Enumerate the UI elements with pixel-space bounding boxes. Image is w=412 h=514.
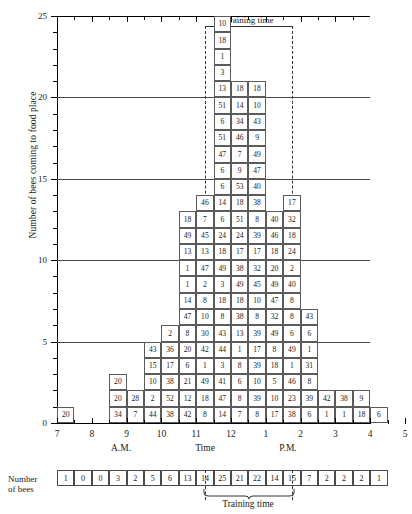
bee-cell: 47 bbox=[179, 309, 196, 325]
bee-cell: 40 bbox=[248, 179, 265, 195]
bee-cell: 43 bbox=[214, 325, 231, 341]
bee-cell: 24 bbox=[283, 244, 300, 260]
bottom-count-cell: 22 bbox=[248, 470, 265, 486]
bee-cell: 8 bbox=[196, 407, 213, 423]
bottom-count-cell: 2 bbox=[353, 470, 370, 486]
x-axis-tick bbox=[196, 418, 197, 424]
bee-cell: 42 bbox=[318, 390, 335, 406]
bee-cell: 47 bbox=[196, 260, 213, 276]
bee-cell: 52 bbox=[161, 390, 178, 406]
x-axis-tick bbox=[92, 418, 93, 424]
bee-cell: 51 bbox=[214, 97, 231, 113]
x-axis-tick bbox=[266, 418, 267, 424]
bee-cell: 38 bbox=[248, 195, 265, 211]
bee-cell: 1 bbox=[179, 260, 196, 276]
x-axis-tick bbox=[405, 418, 406, 424]
bee-cell: 18 bbox=[196, 390, 213, 406]
x-axis-minor-tick bbox=[248, 420, 249, 424]
bottom-count-cell: 25 bbox=[214, 470, 231, 486]
bee-cell: 1 bbox=[196, 358, 213, 374]
bee-cell: 51 bbox=[231, 211, 248, 227]
bottom-count-cell: 1 bbox=[57, 470, 74, 486]
bee-cell: 18 bbox=[231, 293, 248, 309]
bee-cell: 8 bbox=[248, 309, 265, 325]
x-axis-tick-label: 11 bbox=[183, 429, 209, 439]
bottom-count-cell: 0 bbox=[74, 470, 91, 486]
bee-cell: 39 bbox=[248, 390, 265, 406]
bee-cell: 8 bbox=[248, 211, 265, 227]
bee-cell: 10 bbox=[266, 390, 283, 406]
bottom-count-cell: 2 bbox=[318, 470, 335, 486]
bee-cell: 3 bbox=[214, 65, 231, 81]
bee-cell: 24 bbox=[231, 228, 248, 244]
bee-cell: 10 bbox=[248, 97, 265, 113]
bee-cell: 6 bbox=[214, 179, 231, 195]
bee-cell: 28 bbox=[127, 390, 144, 406]
bee-cell: 18 bbox=[248, 81, 265, 97]
bee-cell: 8 bbox=[301, 374, 318, 390]
bee-cell: 14 bbox=[214, 195, 231, 211]
bee-cell: 8 bbox=[179, 325, 196, 341]
bee-cell: 42 bbox=[179, 407, 196, 423]
bee-cell: 32 bbox=[266, 309, 283, 325]
bottom-count-cell: 2 bbox=[127, 470, 144, 486]
bee-cell: 8 bbox=[283, 309, 300, 325]
pm-label: P.M. bbox=[268, 443, 308, 453]
bee-cell: 38 bbox=[283, 407, 300, 423]
x-axis-tick-label: 8 bbox=[79, 429, 105, 439]
x-axis-tick bbox=[301, 418, 302, 424]
bee-cell: 21 bbox=[179, 374, 196, 390]
bee-cell: 38 bbox=[335, 390, 352, 406]
number-of-bees-label-line2: of bees bbox=[8, 484, 38, 494]
bee-cell: 32 bbox=[248, 260, 265, 276]
bee-cell: 7 bbox=[196, 211, 213, 227]
bee-cell: 34 bbox=[109, 407, 126, 423]
x-axis-minor-tick bbox=[353, 420, 354, 424]
bee-cell: 49 bbox=[266, 276, 283, 292]
x-axis-tick bbox=[161, 418, 162, 424]
bee-cell: 44 bbox=[214, 342, 231, 358]
bee-cell: 9 bbox=[353, 390, 370, 406]
bee-cell: 40 bbox=[266, 211, 283, 227]
bee-cell: 39 bbox=[301, 390, 318, 406]
bee-cell: 17 bbox=[283, 195, 300, 211]
bee-cell: 17 bbox=[248, 342, 265, 358]
bottom-count-cell: 0 bbox=[92, 470, 109, 486]
bee-cell: 3 bbox=[214, 276, 231, 292]
x-axis-minor-tick bbox=[109, 420, 110, 424]
bee-cell: 43 bbox=[301, 309, 318, 325]
bee-cell: 49 bbox=[196, 374, 213, 390]
bee-cell: 46 bbox=[231, 130, 248, 146]
x-axis-tick bbox=[335, 418, 336, 424]
bee-cell: 39 bbox=[248, 228, 265, 244]
x-axis-tick-label: 12 bbox=[218, 429, 244, 439]
bee-cell: 47 bbox=[214, 146, 231, 162]
bottom-count-cell: 21 bbox=[231, 470, 248, 486]
bee-cell: 20 bbox=[109, 374, 126, 390]
bee-cell: 18 bbox=[266, 358, 283, 374]
bee-cell: 43 bbox=[248, 114, 265, 130]
number-of-bees-label: Number of bees bbox=[8, 474, 38, 494]
bee-cell: 45 bbox=[248, 276, 265, 292]
bee-cell: 8 bbox=[248, 407, 265, 423]
bee-cell: 18 bbox=[231, 195, 248, 211]
bottom-count-cell: 6 bbox=[161, 470, 178, 486]
x-axis-tick-label: 1 bbox=[253, 429, 279, 439]
number-of-bees-label-line1: Number bbox=[8, 474, 38, 484]
bee-cell: 47 bbox=[248, 163, 265, 179]
bee-cell: 17 bbox=[266, 407, 283, 423]
bee-cell: 18 bbox=[214, 293, 231, 309]
bee-cell: 30 bbox=[196, 325, 213, 341]
bee-cell: 10 bbox=[196, 309, 213, 325]
x-axis-minor-tick bbox=[214, 420, 215, 424]
bee-cell: 49 bbox=[248, 146, 265, 162]
bee-cell: 18 bbox=[179, 211, 196, 227]
am-label: A.M. bbox=[101, 443, 141, 453]
x-axis-minor-tick bbox=[144, 420, 145, 424]
bottom-count-cell: 1 bbox=[370, 470, 387, 486]
bee-cell: 13 bbox=[231, 325, 248, 341]
bee-cell: 17 bbox=[248, 244, 265, 260]
bee-cell: 20 bbox=[179, 342, 196, 358]
bee-cell: 45 bbox=[196, 228, 213, 244]
bee-cell: 31 bbox=[301, 358, 318, 374]
